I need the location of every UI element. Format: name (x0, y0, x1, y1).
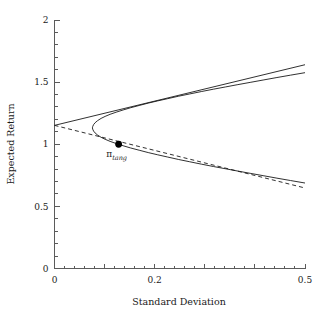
x-axis-tick-label: 0 (52, 275, 58, 285)
tangency-subscript: tang (112, 154, 127, 162)
y-axis-tick-label: 1.5 (34, 77, 49, 87)
series-asymptote (55, 125, 306, 188)
chart-annotations: πtang (106, 141, 127, 162)
chart-canvas: 00.511.52 Expected Return 00.20.5 Standa… (0, 0, 319, 318)
efficient-frontier-chart: 00.511.52 Expected Return 00.20.5 Standa… (0, 0, 319, 318)
y-axis-group: 00.511.52 Expected Return (5, 15, 60, 274)
y-axis-tick-labels: 00.511.52 (34, 15, 49, 274)
tangency-point-label: πtang (106, 149, 127, 162)
y-axis-tick-label: 1 (43, 139, 49, 149)
tangency-point-marker (115, 141, 122, 148)
x-axis-group: 00.20.5 Standard Deviation (52, 264, 313, 308)
series-efficient-frontier-upper (92, 73, 305, 128)
series-capital-market-line (55, 65, 306, 126)
y-axis-ticks (55, 20, 60, 269)
x-axis-ticks (55, 264, 306, 269)
y-axis-title: Expected Return (5, 103, 16, 184)
y-axis-tick-label: 0.5 (34, 202, 49, 212)
x-axis-tick-label: 0.2 (148, 275, 162, 285)
y-axis-tick-label: 0 (43, 264, 49, 274)
x-axis-title: Standard Deviation (132, 296, 226, 307)
x-axis-tick-labels: 00.20.5 (52, 275, 313, 285)
chart-series-group (55, 65, 306, 188)
x-axis-tick-label: 0.5 (298, 275, 313, 285)
y-axis-tick-label: 2 (43, 15, 49, 25)
